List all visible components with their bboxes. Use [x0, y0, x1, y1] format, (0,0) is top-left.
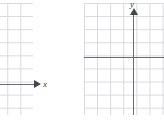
- figure-canvas: x y: [0, 0, 164, 121]
- grid-lines: [84, 3, 164, 115]
- x-axis-label: x: [43, 80, 47, 89]
- grid-lines: [0, 3, 33, 115]
- right-coordinate-grid: [84, 3, 164, 115]
- right-panel-horizontal-axis: [84, 57, 164, 58]
- x-axis-arrowhead-icon: [34, 80, 41, 88]
- left-coordinate-grid: [0, 3, 33, 115]
- left-panel-x-axis: [0, 84, 37, 85]
- right-panel-y-axis: [133, 14, 134, 115]
- y-axis-label: y: [130, 0, 134, 9]
- y-axis-arrowhead-icon: [130, 8, 138, 15]
